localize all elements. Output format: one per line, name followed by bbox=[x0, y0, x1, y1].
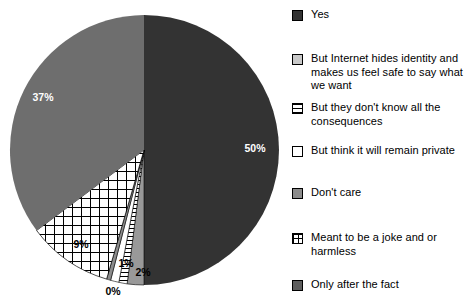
slice-value-dont-know-consequences: 9% bbox=[73, 238, 89, 250]
legend-swatch-solid-medium-gray-icon bbox=[292, 188, 303, 199]
legend-swatch-solid-dark-gray-icon bbox=[292, 280, 303, 291]
legend-label-only-after-fact: Only after the fact bbox=[311, 278, 399, 292]
legend-label-joke-or-harmless: Meant to be a joke and or harmless bbox=[311, 231, 466, 258]
legend-label-dont-care: Don't care bbox=[311, 186, 361, 200]
legend-item-yes[interactable]: Yes bbox=[292, 8, 466, 22]
legend-swatch-solid-dark-icon bbox=[292, 10, 303, 21]
legend-swatch-horizontal-lines-icon bbox=[292, 103, 303, 114]
legend: Yes But Internet hides identity and make… bbox=[292, 0, 466, 303]
legend-label-yes: Yes bbox=[311, 8, 329, 22]
slice-value-yes: 50% bbox=[244, 142, 266, 154]
legend-item-dont-know-consequences[interactable]: But they don't know all the consequences bbox=[292, 101, 466, 128]
pie-chart-svg: 50% 37% 9% 1% 2% 0% bbox=[0, 0, 290, 303]
legend-label-internet-hides-identity: But Internet hides identity and makes us… bbox=[311, 52, 466, 93]
slice-value-internet-hides-identity: 37% bbox=[32, 91, 54, 103]
legend-item-only-after-fact[interactable]: Only after the fact bbox=[292, 278, 466, 292]
slice-value-joke-or-harmless: 1% bbox=[118, 257, 134, 269]
legend-label-remain-private: But think it will remain private bbox=[311, 144, 455, 158]
legend-swatch-empty-white-icon bbox=[292, 146, 303, 157]
slice-value-only-after-fact: 2% bbox=[135, 266, 151, 278]
legend-swatch-solid-light-gray-icon bbox=[292, 54, 303, 65]
legend-item-internet-hides-identity[interactable]: But Internet hides identity and makes us… bbox=[292, 52, 466, 93]
legend-item-dont-care[interactable]: Don't care bbox=[292, 186, 466, 200]
legend-swatch-grid-icon bbox=[292, 233, 303, 244]
legend-item-joke-or-harmless[interactable]: Meant to be a joke and or harmless bbox=[292, 231, 466, 258]
legend-label-dont-know-consequences: But they don't know all the consequences bbox=[311, 101, 466, 128]
slice-value-dont-care: 0% bbox=[105, 285, 121, 297]
pie-chart-area: 50% 37% 9% 1% 2% 0% bbox=[0, 0, 290, 303]
legend-item-remain-private[interactable]: But think it will remain private bbox=[292, 144, 466, 158]
